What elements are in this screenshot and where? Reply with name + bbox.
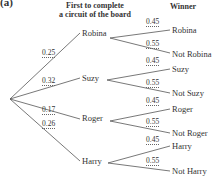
prob-roger-lose: 0.55	[146, 118, 159, 127]
leaf-robina: Robina	[172, 26, 197, 35]
node-suzy: Suzy	[82, 74, 99, 83]
prob-roger: 0.17	[42, 106, 55, 115]
header-winner: Winner	[170, 3, 196, 11]
leaf-roger: Roger	[172, 105, 193, 114]
part-label: (a)	[0, 0, 13, 8]
leaf-not-roger: Not Roger	[172, 129, 208, 138]
prob-roger-win: 0.45	[146, 97, 159, 106]
leaf-not-robina: Not Robina	[172, 50, 211, 59]
prob-suzy: 0.32	[42, 77, 55, 86]
prob-suzy-win: 0.45	[146, 57, 159, 66]
node-roger: Roger	[82, 114, 103, 123]
prob-harry-win: 0.45	[146, 136, 159, 145]
node-harry: Harry	[82, 157, 102, 166]
header-first-line2: a circuit of the board	[40, 11, 150, 19]
prob-robina: 0.25	[42, 49, 55, 58]
leaf-not-suzy: Not Suzy	[172, 89, 204, 98]
leaf-harry: Harry	[172, 142, 192, 151]
prob-robina-lose: 0.55	[146, 40, 159, 49]
node-robina: Robina	[82, 29, 107, 38]
header-first-line1: First to complete	[40, 2, 150, 10]
header-first: First to complete a circuit of the board	[40, 2, 150, 19]
prob-harry: 0.26	[42, 120, 55, 129]
leaf-suzy: Suzy	[172, 65, 189, 74]
leaf-not-harry: Not Harry	[172, 167, 207, 176]
prob-suzy-lose: 0.55	[146, 79, 159, 88]
prob-harry-lose: 0.55	[146, 157, 159, 166]
prob-robina-win: 0.45	[146, 18, 159, 27]
